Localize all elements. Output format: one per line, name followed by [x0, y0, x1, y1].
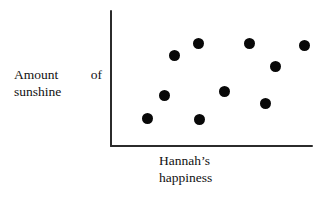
data-point	[169, 50, 180, 61]
y-axis-label: Amount of sunshine	[14, 66, 106, 100]
data-point	[142, 113, 153, 124]
data-point	[244, 38, 255, 49]
x-axis-label-line2: happiness	[159, 169, 279, 186]
data-point	[260, 98, 271, 109]
data-point	[270, 61, 281, 72]
y-axis-label-line2: sunshine	[14, 83, 106, 100]
x-axis-label: Hannah’s happiness	[159, 152, 279, 186]
data-point	[193, 38, 204, 49]
data-point	[219, 86, 230, 97]
y-axis-label-word-amount: Amount	[14, 66, 58, 83]
y-axis-label-line1: Amount of	[14, 66, 102, 83]
scatter-plot-figure: Amount of sunshine Hannah’s happiness	[0, 0, 329, 200]
x-axis-label-line1: Hannah’s	[159, 152, 279, 169]
y-axis-label-word-of: of	[91, 66, 102, 83]
data-point	[299, 40, 310, 51]
data-point	[159, 90, 170, 101]
data-point	[194, 114, 205, 125]
y-axis-line	[110, 10, 112, 147]
x-axis-line	[110, 145, 313, 147]
